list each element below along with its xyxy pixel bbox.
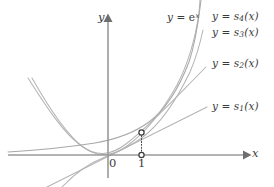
curve-label-s1-arg: (x) (244, 100, 258, 112)
x-axis-label: x (252, 148, 259, 160)
marker-group (139, 130, 144, 158)
x-tick-label-1: 1 (138, 158, 145, 170)
y-axis-label: y (98, 12, 105, 24)
curve-label-exp: y = ex (167, 12, 199, 23)
curve-label-exp-exponent: x (195, 11, 199, 20)
curve-label-s4-arg: (x) (244, 10, 258, 22)
curve-label-s4: y = s4(x) (212, 11, 259, 23)
curve-label-s3-prefix: y = (212, 26, 234, 38)
point-on-curve-marker (139, 130, 144, 135)
curve-label-exp-prefix: y = (167, 11, 189, 23)
curve-s4 (32, 0, 200, 155)
x-tick-label-0: 0 (109, 158, 116, 170)
curve-s3 (62, 30, 203, 187)
curve-label-s2-prefix: y = (212, 57, 234, 69)
curve-label-s3: y = s3(x) (212, 27, 259, 39)
x-axis-arrowhead (243, 151, 252, 160)
taylor-series-figure: y = ex y = s4(x) y = s3(x) y = s2(x) y =… (0, 0, 274, 187)
curve-label-s1: y = s1(x) (212, 101, 259, 113)
curve-label-s2-arg: (x) (244, 57, 258, 69)
curve-label-s3-arg: (x) (244, 26, 258, 38)
curve-label-s1-prefix: y = (212, 100, 234, 112)
curve-label-s4-prefix: y = (212, 10, 234, 22)
curve-label-s2: y = s2(x) (212, 58, 259, 70)
